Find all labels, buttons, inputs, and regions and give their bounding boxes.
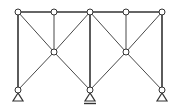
joint-node-icon: [87, 87, 93, 93]
joint-node-icon: [87, 9, 93, 15]
truss-member: [54, 12, 90, 52]
joint-node-icon: [51, 9, 57, 15]
joint-node-icon: [123, 49, 129, 55]
joint-node-icon: [159, 87, 165, 93]
truss-member: [126, 12, 162, 52]
truss-member: [54, 52, 90, 90]
joint-node-icon: [159, 9, 165, 15]
joint-node-icon: [123, 9, 129, 15]
support-triangle-icon: [85, 93, 95, 101]
joint-node-icon: [15, 9, 21, 15]
joint-node-icon: [51, 49, 57, 55]
truss-member: [126, 52, 162, 90]
truss-members: [18, 12, 162, 90]
support-triangle-icon: [157, 93, 167, 101]
support-icon: [157, 93, 167, 101]
joint-node-icon: [15, 87, 21, 93]
truss-member: [90, 52, 126, 90]
truss-supports: [13, 93, 167, 104]
support-icon: [13, 93, 23, 101]
truss-diagram: [0, 0, 175, 111]
truss-member: [18, 12, 54, 52]
support-triangle-icon: [13, 93, 23, 101]
truss-member: [90, 12, 126, 52]
truss-member: [18, 52, 54, 90]
support-icon: [84, 93, 96, 104]
